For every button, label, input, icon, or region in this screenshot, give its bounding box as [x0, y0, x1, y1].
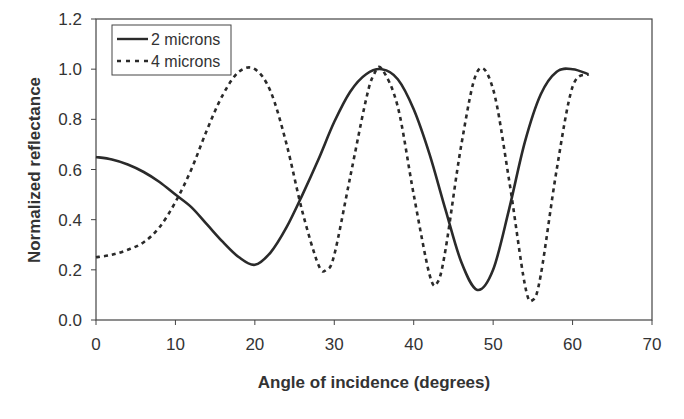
- x-tick-label: 10: [166, 335, 185, 354]
- x-tick-label: 70: [643, 335, 662, 354]
- x-tick-label: 0: [91, 335, 100, 354]
- x-tick-label: 60: [563, 335, 582, 354]
- y-axis-title: Normalized reflectance: [25, 77, 44, 263]
- y-tick-label: 1.2: [58, 10, 82, 29]
- series-line-2-microns: [96, 69, 589, 290]
- plot-series: [96, 67, 589, 301]
- x-tick-label: 40: [404, 335, 423, 354]
- y-tick-label: 0.4: [58, 211, 82, 230]
- y-tick-label: 0.0: [58, 311, 82, 330]
- x-axis-title: Angle of incidence (degrees): [258, 373, 490, 392]
- legend-label: 4 microns: [151, 53, 220, 70]
- y-tick-label: 0.6: [58, 161, 82, 180]
- legend: 2 microns4 microns: [112, 25, 231, 75]
- reflectance-chart: 0102030405060700.00.20.40.60.81.01.2 2 m…: [0, 0, 684, 419]
- x-tick-label: 30: [325, 335, 344, 354]
- y-tick-label: 0.2: [58, 261, 82, 280]
- x-tick-label: 50: [484, 335, 503, 354]
- legend-label: 2 microns: [151, 31, 220, 48]
- y-tick-label: 1.0: [58, 60, 82, 79]
- y-tick-label: 0.8: [58, 110, 82, 129]
- x-tick-label: 20: [245, 335, 264, 354]
